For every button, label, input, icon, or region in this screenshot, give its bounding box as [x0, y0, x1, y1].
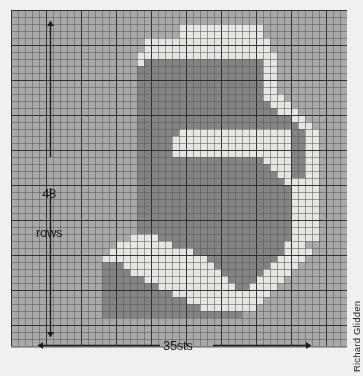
photo-credit: Richard Glidden — [351, 301, 362, 372]
rows-count: 48 — [36, 187, 62, 200]
stitches-dimension-label: 35sts — [163, 339, 193, 352]
rows-dimension-label: 48 rows — [36, 160, 62, 266]
chart-page: 48 rows 35sts Richard Glidden — [0, 0, 363, 376]
rows-unit: rows — [36, 226, 62, 239]
